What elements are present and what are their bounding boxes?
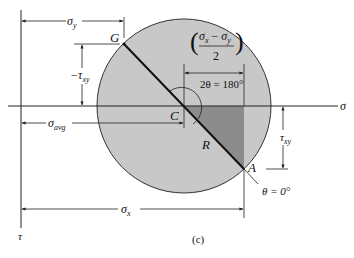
point-c-label: C — [170, 108, 179, 123]
radius-label: R — [201, 137, 210, 152]
paren-left: ( — [190, 27, 199, 56]
tau-axis-label: τ — [18, 230, 23, 242]
sigma-x-label: σx — [121, 202, 131, 218]
sigma-y-label: σy — [67, 14, 77, 30]
theta-zero-label: θ = 0° — [262, 185, 291, 197]
point-g-label: G — [110, 30, 120, 45]
point-g-dot — [122, 42, 125, 45]
sigma-axis-label: σ — [340, 99, 347, 113]
two-theta-label: 2θ = 180° — [200, 78, 243, 90]
paren-right: ) — [235, 27, 244, 56]
neg-tau-xy-label: −τxy — [70, 68, 90, 84]
sigma-avg-label: σavg — [48, 116, 65, 132]
figure-caption: (c) — [192, 233, 205, 246]
point-a-label: A — [247, 160, 256, 175]
tau-xy-label: τxy — [280, 131, 291, 146]
half-diff-numerator: σx − σy — [199, 29, 231, 45]
mohrs-circle-diagram: σy −τxy σavg σx ( ) σx − σy 2 2θ = 180° … — [0, 0, 354, 258]
half-diff-denominator: 2 — [213, 49, 219, 63]
